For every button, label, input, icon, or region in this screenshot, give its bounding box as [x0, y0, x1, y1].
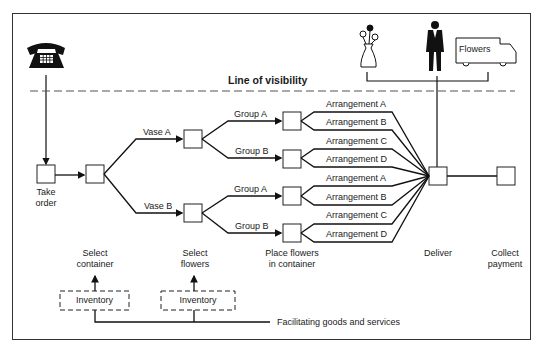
- telephone-icon: [27, 43, 65, 68]
- vase-b-label: Vase B: [144, 201, 172, 212]
- arrangement-label: Arrangement A: [326, 173, 386, 184]
- vase-b-box: [184, 204, 202, 222]
- arrangement-label: Arrangement D: [326, 154, 387, 165]
- vase-a-box: [184, 130, 202, 148]
- group-box: [283, 224, 301, 242]
- take-order-label: Takeorder: [31, 187, 61, 209]
- facilitating-goods-label: Facilitating goods and services: [277, 317, 400, 328]
- group-label: Group A: [234, 184, 267, 195]
- deliver-box: [429, 167, 447, 185]
- group-box: [283, 150, 301, 168]
- step2-box: [86, 165, 104, 183]
- truck-label: Flowers: [459, 44, 491, 55]
- delivery-person-icon: [426, 21, 444, 71]
- group-label: Group A: [234, 109, 267, 120]
- flower-vase-icon: [360, 25, 378, 67]
- collect-payment-box: [497, 167, 515, 185]
- arrangement-label: Arrangement C: [326, 136, 387, 147]
- group-label: Group B: [235, 221, 269, 232]
- deliver-label: Deliver: [418, 248, 458, 259]
- arrangement-label: Arrangement C: [326, 210, 387, 221]
- group-label: Group B: [235, 146, 269, 157]
- take-order-box: [37, 165, 55, 183]
- vase-a-label: Vase A: [143, 127, 171, 138]
- collect-payment-label: Collectpayment: [480, 248, 530, 270]
- line-of-visibility-label: Line of visibility: [228, 75, 307, 86]
- select-container-label: Selectcontainer: [65, 248, 125, 270]
- inventory-label: Inventory: [60, 295, 129, 306]
- arrangement-label: Arrangement A: [326, 99, 386, 110]
- arrangement-label: Arrangement D: [326, 229, 387, 240]
- inventory-label: Inventory: [161, 295, 235, 306]
- group-box: [283, 187, 301, 205]
- place-flowers-label: Place flowersin container: [252, 248, 332, 270]
- select-flowers-label: Selectflowers: [165, 248, 225, 270]
- group-box: [283, 112, 301, 130]
- arrangement-label: Arrangement B: [326, 192, 387, 203]
- arrangement-label: Arrangement B: [326, 117, 387, 128]
